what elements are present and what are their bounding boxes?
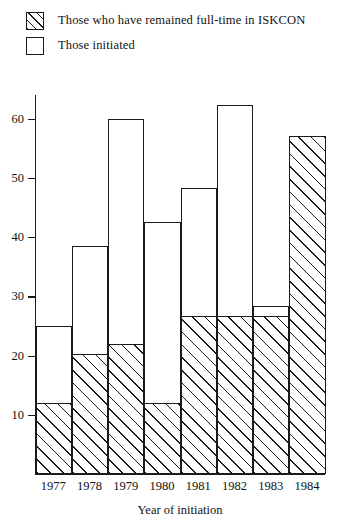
bar-group-1979 xyxy=(108,95,144,474)
y-tick-label-20: 20 xyxy=(12,348,25,363)
legend-label-remained: Those who have remained full-time in ISK… xyxy=(58,13,305,28)
bar-remained-1980 xyxy=(144,403,180,474)
empty-square-icon xyxy=(26,37,44,55)
bar-remained-1982 xyxy=(217,316,253,474)
x-tick-label-1984: 1984 xyxy=(294,479,319,494)
x-tick-label-1977: 1977 xyxy=(41,479,66,494)
bar-remained-1981 xyxy=(181,316,217,474)
bar-remained-1979 xyxy=(108,344,144,474)
bar-group-1984 xyxy=(289,95,325,474)
x-tick-label-1982: 1982 xyxy=(222,479,247,494)
bars-container xyxy=(36,95,326,474)
y-tick-label-10: 10 xyxy=(12,407,25,422)
bar-group-1981 xyxy=(181,95,217,474)
y-tick-label-40: 40 xyxy=(12,230,25,245)
bar-chart: Those who have remained full-time in ISK… xyxy=(0,0,337,517)
bar-group-1980 xyxy=(144,95,180,474)
chart-legend: Those who have remained full-time in ISK… xyxy=(26,8,326,58)
bar-remained-1983 xyxy=(253,316,289,474)
x-tick-label-1983: 1983 xyxy=(258,479,283,494)
bar-group-1978 xyxy=(72,95,108,474)
x-tick-label-1978: 1978 xyxy=(77,479,102,494)
bar-remained-1978 xyxy=(72,354,108,474)
legend-item-initiated: Those initiated xyxy=(26,33,326,58)
legend-label-initiated: Those initiated xyxy=(58,38,135,53)
y-tick-label-60: 60 xyxy=(12,111,25,126)
bar-group-1977 xyxy=(36,95,72,474)
y-tick-label-30: 30 xyxy=(12,289,25,304)
bar-remained-1984 xyxy=(289,136,325,474)
bar-group-1982 xyxy=(217,95,253,474)
x-axis-title: Year of initiation xyxy=(35,503,325,517)
x-tick-label-1979: 1979 xyxy=(113,479,138,494)
legend-item-remained: Those who have remained full-time in ISK… xyxy=(26,8,326,33)
x-tick-label-1980: 1980 xyxy=(149,479,174,494)
bar-group-1983 xyxy=(253,95,289,474)
x-tick-label-1981: 1981 xyxy=(186,479,211,494)
hatched-square-icon xyxy=(26,12,44,30)
plot-area: 102030405060 197719781979198019811982198… xyxy=(35,95,325,475)
bar-remained-1977 xyxy=(36,403,72,474)
y-tick-label-50: 50 xyxy=(12,170,25,185)
